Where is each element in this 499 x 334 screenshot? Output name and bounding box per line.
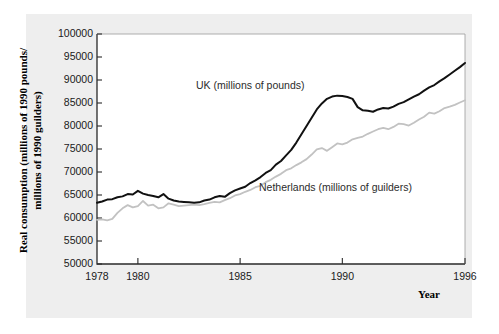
y-tick-label: 100000 [41,28,93,39]
y-tick-label: 75000 [41,143,93,154]
y-tick-label: 55000 [41,235,93,246]
y-axis-title: Real consumption (millions of 1990 pound… [17,35,44,267]
y-tick-label: 95000 [41,51,93,62]
series-label-uk: UK (millions of pounds) [196,79,305,91]
y-tick-label: 60000 [41,212,93,223]
tick-marks [97,34,465,264]
x-tick-label: 1996 [435,270,495,282]
y-axis-title-line-2: millions of 1990 guilders) [30,91,42,209]
x-tick-label: 1990 [312,270,372,282]
y-tick-label: 65000 [41,189,93,200]
y-tick-label: 70000 [41,166,93,177]
y-tick-label: 85000 [41,97,93,108]
y-tick-label: 50000 [41,258,93,269]
axes-lines [97,34,465,264]
x-tick-label: 1980 [108,270,168,282]
y-axis-title-line-1: Real consumption (millions of 1990 pound… [17,48,29,253]
x-axis-title: Year [418,288,440,300]
y-axis-tick-labels: 5000055000600006500070000750008000085000… [38,0,93,334]
x-tick-label: 1985 [210,270,270,282]
y-tick-label: 80000 [41,120,93,131]
chart-figure: 5000055000600006500070000750008000085000… [0,0,499,334]
series-label-netherlands: Netherlands (millions of guilders) [259,181,412,193]
y-tick-label: 90000 [41,74,93,85]
